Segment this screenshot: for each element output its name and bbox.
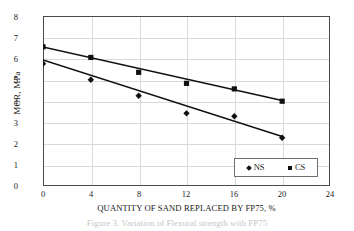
- y-tick-label-5: 5: [14, 76, 18, 85]
- legend-label-cs: CS: [295, 163, 305, 172]
- data-point: [88, 55, 93, 60]
- x-axis-title: QUANTITY OF SAND REPLACED BY FP75, %: [43, 203, 330, 213]
- series-cs-trendline: [43, 47, 282, 101]
- data-point: [135, 92, 141, 98]
- x-tick-label-8: 8: [127, 190, 151, 199]
- legend-item-cs[interactable]: CS: [288, 163, 305, 172]
- y-tick-label-3: 3: [14, 119, 18, 128]
- figure-container: MOR, MPa 8 7 6 5 4 3 2 1 0 0 4 8 12 16: [0, 0, 354, 231]
- data-point: [136, 70, 141, 75]
- x-tick-label-16: 16: [222, 190, 246, 199]
- data-point: [183, 110, 189, 116]
- data-point: [231, 113, 237, 119]
- x-tick-label-4: 4: [79, 190, 103, 199]
- data-point: [232, 86, 237, 91]
- square-marker-icon: [288, 166, 292, 170]
- y-tick-label-4: 4: [14, 98, 18, 107]
- data-point: [280, 99, 285, 104]
- diamond-marker-icon: [246, 165, 252, 171]
- x-tick-label-12: 12: [174, 190, 198, 199]
- data-point: [184, 81, 189, 86]
- y-tick-label-2: 2: [14, 140, 18, 149]
- data-point: [43, 44, 46, 49]
- x-tick-label-0: 0: [31, 190, 55, 199]
- legend-item-ns[interactable]: NS: [247, 163, 265, 172]
- y-tick-label-0: 0: [14, 182, 18, 191]
- series-ns-markers: [43, 61, 285, 141]
- series-ns-trendline: [43, 60, 282, 137]
- y-tick-label-7: 7: [14, 34, 18, 43]
- data-point: [88, 77, 94, 83]
- x-tick-label-20: 20: [270, 190, 294, 199]
- x-tick-label-24: 24: [318, 190, 342, 199]
- chart-legend[interactable]: NS CS: [234, 158, 318, 177]
- y-tick-label-1: 1: [14, 161, 18, 170]
- y-tick-label-6: 6: [14, 55, 18, 64]
- y-tick-label-8: 8: [14, 13, 18, 22]
- legend-label-ns: NS: [254, 163, 265, 172]
- figure-caption: Figure 3. Variation of Flexural strength…: [0, 218, 354, 228]
